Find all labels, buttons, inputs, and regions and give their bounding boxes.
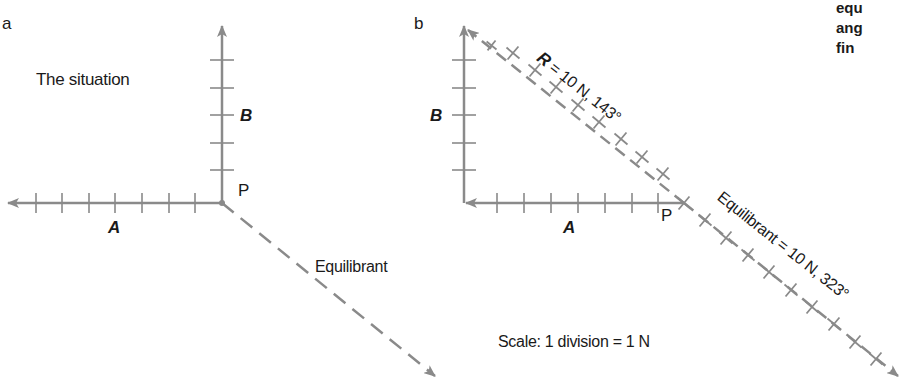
side-caption-line: fin	[836, 38, 863, 58]
panel-a-vector-a-label: A	[108, 218, 120, 238]
side-caption-line: equ	[836, 0, 863, 18]
resultant-dashed-arrow	[468, 30, 684, 203]
panel-a-letter: a	[2, 14, 11, 34]
equilibrant-cross-ticks	[698, 213, 882, 365]
side-caption-line: ang	[836, 18, 863, 38]
panel-b-point-p-label: P	[661, 206, 672, 226]
vector-diagram	[0, 0, 900, 377]
point-p-dot	[219, 200, 225, 206]
panel-b-letter: b	[414, 14, 423, 34]
panel-b-vector-a-label: A	[563, 218, 575, 238]
panel-a-title: The situation	[36, 70, 129, 90]
panel-a-vector-b-label: B	[240, 106, 252, 126]
scale-label: Scale: 1 division = 1 N	[498, 333, 650, 351]
equilibrant-dashed-arrow	[222, 203, 435, 376]
panel-b-diagram	[452, 26, 898, 376]
side-caption-fragment: equ ang fin	[836, 0, 863, 58]
panel-b-vector-b-label: B	[430, 106, 442, 126]
panel-a-equilibrant-label: Equilibrant	[315, 258, 387, 276]
panel-a-point-p-label: P	[238, 181, 249, 201]
